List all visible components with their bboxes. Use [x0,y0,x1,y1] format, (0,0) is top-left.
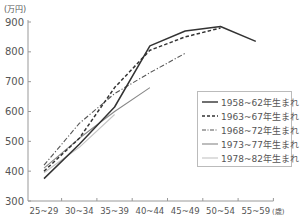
legend-item-1958: 1958~62年生まれ [202,95,287,109]
x-axis: 25~2930~3435~3940~4445~4950~5455~59 [28,198,273,216]
x-tick-label: 35~39 [100,206,129,216]
y-tick-label: 700 [5,76,24,87]
y-tick-label: 800 [5,46,24,57]
dashed-line-icon [202,112,218,120]
legend: 1958~62年生まれ 1963~67年生まれ 1968~72年生まれ 1973… [197,91,292,167]
income-by-age-chart: (万円) 300400500600700800900 25~2930~3435~… [0,0,299,220]
legend-label: 1978~82年生まれ [221,152,299,165]
legend-item-1973: 1973~77年生まれ [202,137,287,151]
legend-item-1978: 1978~82年生まれ [202,151,287,165]
y-axis-unit: (万円) [4,5,26,14]
legend-label: 1973~77年生まれ [221,138,299,151]
x-tick-label: 25~29 [30,206,59,216]
y-tick-label: 900 [5,17,24,28]
y-tick-label: 500 [5,136,24,147]
y-tick-label: 300 [5,196,24,207]
solid-line-icon [202,98,218,106]
legend-item-1963: 1963~67年生まれ [202,109,287,123]
light-gray-line-icon [202,154,218,162]
y-axis: 300400500600700800900 [5,17,31,207]
gray-line-icon [202,140,218,148]
legend-label: 1958~62年生まれ [221,96,299,109]
x-tick-label: 50~54 [206,206,235,216]
x-tick-label: 55~59 [241,206,270,216]
dashdot-line-icon [202,126,218,134]
legend-label: 1963~67年生まれ [221,110,299,123]
x-tick-label: 30~34 [65,206,94,216]
x-tick-label: 45~49 [171,206,200,216]
legend-label: 1968~72年生まれ [221,124,299,137]
y-tick-label: 400 [5,166,24,177]
legend-item-1968: 1968~72年生まれ [202,123,287,137]
y-tick-label: 600 [5,106,24,117]
series-line [44,53,185,165]
series-line [44,88,150,169]
x-axis-unit: (歳) [272,207,285,216]
x-tick-label: 40~44 [136,206,165,216]
